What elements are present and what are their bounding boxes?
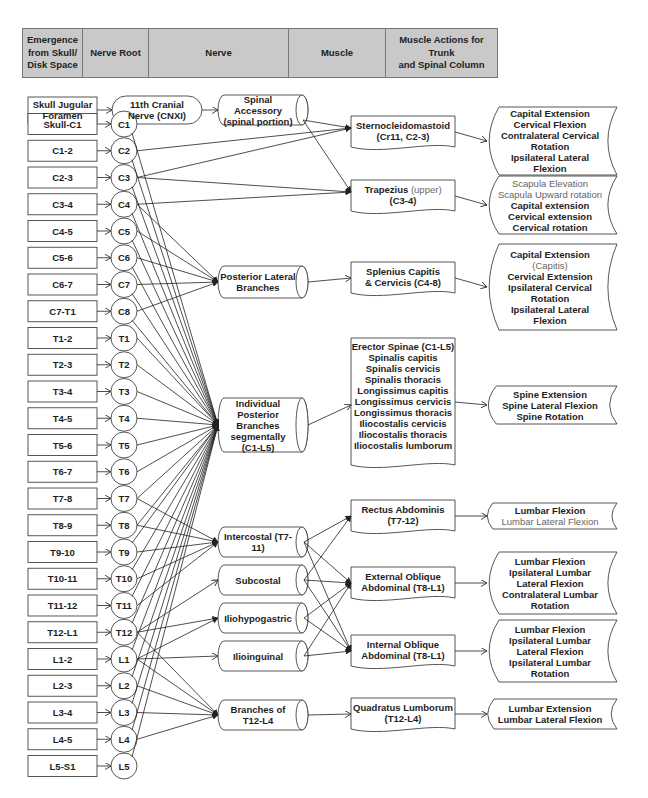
emergence-box (28, 194, 97, 215)
action-box (489, 107, 617, 175)
nerve-cylinder-end (296, 266, 308, 298)
arrow-connector (455, 402, 487, 405)
action-box (488, 386, 617, 424)
root-node (111, 298, 137, 324)
root-node (111, 646, 137, 672)
root-node (111, 619, 137, 645)
muscle-box (351, 116, 455, 150)
arrow-connector (137, 425, 218, 525)
arrow-connector (455, 196, 487, 205)
arrow-connector (132, 320, 218, 425)
arrow-connector (132, 425, 218, 730)
arrow-connector (137, 713, 218, 716)
arrow-connector (137, 392, 218, 426)
arrow-connector (132, 160, 218, 425)
emergence-box (28, 649, 97, 670)
arrow-connector (137, 542, 218, 579)
arrow-connector (304, 583, 351, 618)
root-node (111, 352, 137, 378)
muscle-box (351, 338, 455, 468)
nerve-cylinder (218, 700, 308, 730)
arrow-connector (304, 516, 351, 542)
root-node (111, 218, 137, 244)
root-node (111, 700, 137, 726)
nerve-cylinder (218, 398, 308, 452)
arrow-connector (137, 656, 218, 659)
emergence-box (28, 221, 97, 242)
arrow-connector (132, 133, 218, 425)
root-node (111, 111, 137, 137)
emergence-box (28, 354, 97, 375)
action-box (487, 503, 617, 529)
arrow-connector (137, 204, 218, 282)
emergence-box (28, 488, 97, 509)
root-node (111, 405, 137, 431)
arrow-connector (137, 525, 218, 542)
muscle-box (351, 500, 455, 534)
emergence-box (28, 568, 97, 589)
emergence-box (28, 595, 97, 616)
root-node (111, 325, 137, 351)
emergence-box (28, 702, 97, 723)
emergence-box (28, 435, 97, 456)
arrow-connector (137, 128, 351, 178)
emergence-box (28, 301, 97, 322)
action-box (488, 699, 617, 729)
arrow-connector (304, 580, 351, 583)
nerve-cylinder-end (296, 398, 308, 452)
arrow-connector (132, 425, 218, 597)
nerve-cylinder-end (296, 700, 308, 730)
root-node (111, 379, 137, 405)
emergence-box (28, 675, 97, 696)
emergence-box (28, 381, 97, 402)
arrow-connector (137, 418, 218, 425)
arrow-connector (137, 128, 351, 151)
nerve-cylinder (218, 565, 308, 595)
arrow-connector (132, 425, 218, 650)
nerve-cylinder (218, 266, 308, 298)
muscle-box (351, 698, 455, 732)
action-box (489, 244, 617, 330)
emergence-box (28, 408, 97, 429)
arrow-connector (137, 542, 218, 606)
emergence-box (28, 274, 97, 295)
arrow-connector (137, 686, 218, 715)
root-node (111, 566, 137, 592)
muscle-box (351, 262, 455, 296)
arrow-connector (132, 187, 218, 426)
root-node (111, 486, 137, 512)
nerve-cylinder (218, 641, 308, 671)
emergence-box (28, 114, 97, 135)
muscle-box (351, 180, 455, 214)
nerve-cylinder (218, 95, 308, 125)
emergence-box (28, 542, 97, 563)
arrow-connector (308, 714, 351, 715)
arrow-connector (455, 132, 487, 141)
root-node (111, 459, 137, 485)
arrow-connector (137, 282, 218, 285)
root-node (111, 726, 137, 752)
root-node (111, 432, 137, 458)
arrow-connector (304, 583, 351, 656)
action-box (489, 552, 617, 614)
arrow-connector (304, 651, 351, 656)
root-node (111, 539, 137, 565)
emergence-box (28, 729, 97, 750)
arrow-connector (132, 240, 218, 425)
emergence-box (28, 140, 97, 161)
arrow-connector (132, 425, 218, 623)
nerve-cylinder (218, 603, 308, 633)
nerve-cylinder-end (296, 527, 308, 557)
arrow-connector (132, 267, 218, 425)
arrow-connector (137, 715, 218, 739)
emergence-box (28, 461, 97, 482)
action-box (489, 620, 617, 682)
root-node (111, 245, 137, 271)
arrow-connector (304, 580, 351, 651)
arrow-connector (137, 618, 218, 632)
root-node (111, 272, 137, 298)
arrow-connector (132, 425, 218, 757)
emergence-box (28, 328, 97, 349)
arrow-connector (455, 278, 487, 287)
nerve-cylinder-end (296, 603, 308, 633)
